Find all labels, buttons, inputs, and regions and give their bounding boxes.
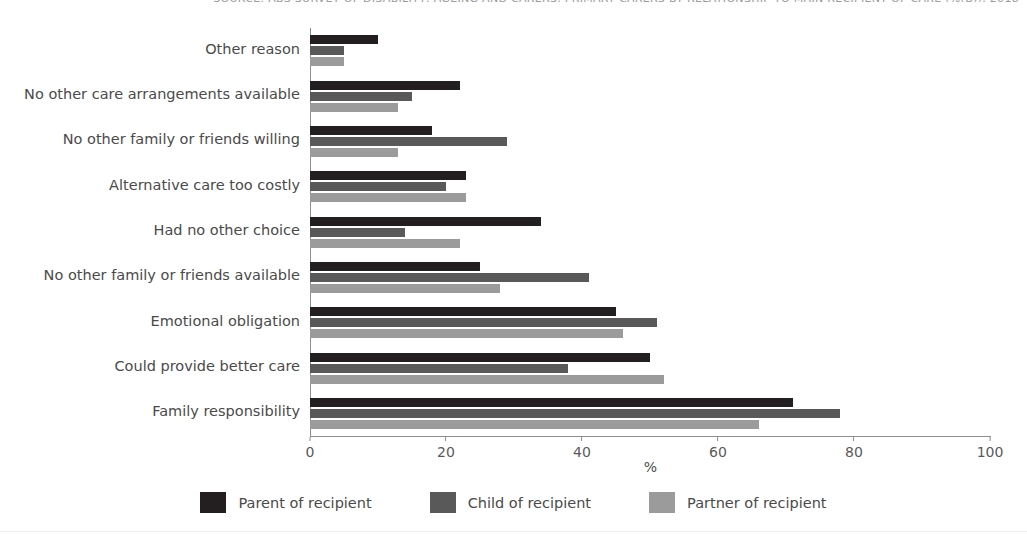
category-label: Emotional obligation <box>0 313 300 329</box>
bar <box>310 262 480 271</box>
category-label: No other care arrangements available <box>0 86 300 102</box>
bar <box>310 273 589 282</box>
x-axis-line <box>310 436 991 437</box>
category-label: Had no other choice <box>0 222 300 238</box>
category-label: No other family or friends willing <box>0 131 300 147</box>
bar <box>310 284 500 293</box>
legend-label: Child of recipient <box>468 495 591 511</box>
x-axis-title: % <box>310 459 991 475</box>
bar-group <box>310 307 990 338</box>
legend-label: Parent of recipient <box>238 495 371 511</box>
bar-group <box>310 398 990 429</box>
bar <box>310 92 412 101</box>
legend-label: Partner of recipient <box>687 495 827 511</box>
bar-group <box>310 171 990 202</box>
bar <box>310 171 466 180</box>
category-label: Could provide better care <box>0 358 300 374</box>
bar <box>310 46 344 55</box>
x-axis-tick: 0 <box>306 437 315 460</box>
bar <box>310 35 378 44</box>
bar-group <box>310 353 990 384</box>
x-axis-tick: 80 <box>845 437 863 460</box>
category-label: Other reason <box>0 41 300 57</box>
legend-item[interactable]: Child of recipient <box>430 492 591 513</box>
category-axis-labels: Other reasonNo other care arrangements a… <box>0 28 300 436</box>
bar <box>310 375 664 384</box>
tick-mark <box>445 437 446 441</box>
x-axis-tick: 100 <box>977 437 1004 460</box>
bar-group <box>310 217 990 248</box>
x-axis-tick: 60 <box>709 437 727 460</box>
bar <box>310 409 840 418</box>
category-label: Family responsibility <box>0 403 300 419</box>
bar <box>310 239 460 248</box>
source-note: SOURCE: ABS SURVEY OF DISABILITY, AGEING… <box>0 0 1027 2</box>
bar <box>310 329 623 338</box>
bar-group <box>310 81 990 112</box>
bar <box>310 217 541 226</box>
bar <box>310 137 507 146</box>
tick-mark <box>309 437 310 441</box>
tick-mark <box>581 437 582 441</box>
bar <box>310 126 432 135</box>
bar-group <box>310 262 990 293</box>
bar <box>310 148 398 157</box>
bar <box>310 103 398 112</box>
bar <box>310 182 446 191</box>
bar-group <box>310 126 990 157</box>
bar <box>310 57 344 66</box>
legend-swatch <box>430 492 456 513</box>
bar <box>310 420 759 429</box>
tick-mark <box>989 437 990 441</box>
x-axis-tick: 40 <box>573 437 591 460</box>
scan-artifact-line <box>0 531 1027 532</box>
bar <box>310 307 616 316</box>
legend-swatch <box>649 492 675 513</box>
category-label: Alternative care too costly <box>0 177 300 193</box>
bar <box>310 353 650 362</box>
plot-area <box>310 28 990 436</box>
tick-mark <box>853 437 854 441</box>
bar <box>310 398 793 407</box>
legend-item[interactable]: Parent of recipient <box>200 492 371 513</box>
chart-legend: Parent of recipientChild of recipientPar… <box>0 492 1027 513</box>
x-axis-tick: 20 <box>437 437 455 460</box>
legend-item[interactable]: Partner of recipient <box>649 492 827 513</box>
category-label: No other family or friends available <box>0 267 300 283</box>
bar-group <box>310 35 990 66</box>
bar <box>310 318 657 327</box>
bar <box>310 193 466 202</box>
bar <box>310 81 460 90</box>
bar <box>310 364 568 373</box>
legend-swatch <box>200 492 226 513</box>
chart-figure: SOURCE: ABS SURVEY OF DISABILITY, AGEING… <box>0 0 1027 535</box>
bar <box>310 228 405 237</box>
tick-mark <box>717 437 718 441</box>
